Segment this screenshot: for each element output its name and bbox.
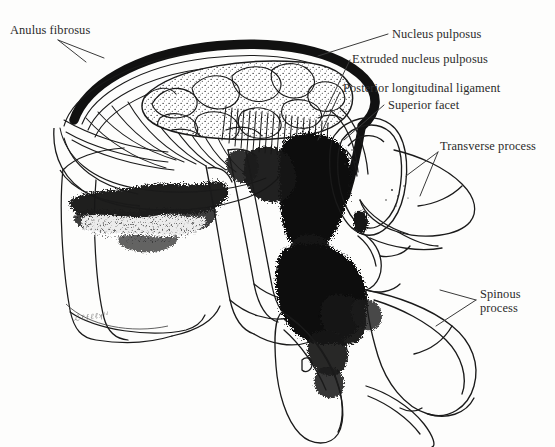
label-anulus-fibrosus: Anulus fibrosus xyxy=(10,24,90,38)
label-posterior-longitudinal-ligament: Posterior longitudinal ligament xyxy=(343,82,500,96)
label-extruded-nucleus-pulposus: Extruded nucleus pulposus xyxy=(352,53,488,67)
vertebra-illustration-svg xyxy=(0,0,555,447)
label-spinous-process: Spinous process xyxy=(480,288,550,316)
anatomical-figure: Anulus fibrosus Nucleus pulposus Extrude… xyxy=(0,0,555,447)
label-nucleus-pulposus: Nucleus pulposus xyxy=(392,28,481,42)
label-transverse-process: Transverse process xyxy=(440,140,540,154)
label-superior-facet: Superior facet xyxy=(388,99,459,113)
